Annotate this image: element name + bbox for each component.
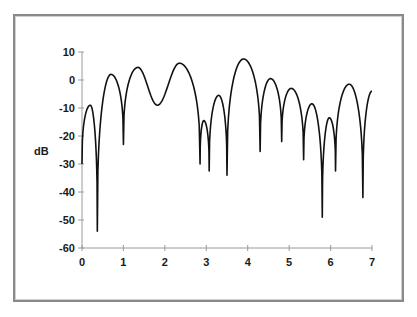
- x-tick-label: 6: [328, 256, 334, 268]
- x-tick-label: 7: [369, 256, 375, 268]
- y-tick-label: -60: [59, 242, 75, 254]
- y-tick-label: 0: [69, 74, 75, 86]
- y-tick-label: -50: [59, 214, 75, 226]
- tick-labels: 100-10-20-30-40-50-6001234567: [59, 46, 375, 268]
- y-tick-label: -10: [59, 102, 75, 114]
- y-tick-label: -20: [59, 130, 75, 142]
- x-tick-label: 5: [286, 256, 292, 268]
- x-tick-label: 4: [245, 256, 252, 268]
- x-tick-label: 0: [79, 256, 85, 268]
- axes: [78, 52, 372, 251]
- y-axis-title: dB: [34, 145, 49, 157]
- x-tick-label: 2: [162, 256, 168, 268]
- y-tick-label: 10: [63, 46, 75, 58]
- y-tick-label: -40: [59, 186, 75, 198]
- line-chart: 100-10-20-30-40-50-6001234567 dB: [0, 0, 417, 317]
- x-tick-label: 3: [203, 256, 209, 268]
- data-series-line: [82, 59, 372, 231]
- x-tick-label: 1: [120, 256, 126, 268]
- y-tick-label: -30: [59, 158, 75, 170]
